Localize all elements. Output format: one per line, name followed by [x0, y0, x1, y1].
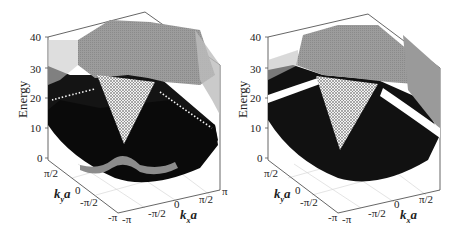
y-tick-0: 0: [75, 185, 81, 196]
kx-axis-label: kxa: [180, 207, 197, 225]
x-tick-neg-pi-half: -π/2: [368, 208, 386, 219]
z-tick-10: 10: [30, 123, 41, 134]
ky-axis-label: kya: [54, 186, 71, 204]
z-tick-20: 20: [250, 93, 261, 104]
z-tick-40: 40: [250, 32, 261, 43]
x-tick-neg-pi: -π: [122, 214, 131, 225]
z-tick-10: 10: [250, 123, 261, 134]
x-tick-pi: π: [222, 186, 228, 197]
z-tick-20: 20: [30, 93, 41, 104]
y-tick-neg-pi: -π: [328, 212, 337, 223]
z-tick-30: 30: [250, 64, 261, 75]
x-tick-0: 0: [394, 199, 400, 210]
x-tick-0: 0: [174, 199, 180, 210]
z-tick-0: 0: [257, 153, 263, 164]
y-tick-pi-half: π/2: [264, 168, 278, 179]
plot-panel-left: 40 30 20 10 0 Energy π/2 0 -π/2 -π kya -…: [0, 0, 228, 235]
ky-axis-label: kya: [274, 186, 291, 204]
x-tick-neg-pi-half: -π/2: [148, 208, 166, 219]
plot-panel-right: 40 30 20 10 0 Energy π/2 0 -π/2 -π kya -…: [228, 0, 455, 235]
y-tick-neg-pi-half: -π/2: [80, 197, 98, 208]
y-tick-neg-pi-half: -π/2: [300, 197, 318, 208]
x-tick-pi-half: π/2: [199, 194, 213, 205]
y-tick-neg-pi: -π: [108, 212, 117, 223]
x-tick-neg-pi: -π: [342, 214, 351, 225]
kx-axis-label: kxa: [400, 207, 417, 225]
z-tick-30: 30: [30, 64, 41, 75]
y-tick-pi-half: π/2: [44, 168, 58, 179]
z-tick-0: 0: [37, 153, 43, 164]
y-tick-0: 0: [295, 185, 301, 196]
z-ticks: [265, 37, 268, 158]
z-axis-label: Energy: [235, 81, 251, 118]
z-axis-label: Energy: [15, 81, 31, 118]
x-tick-pi-half: π/2: [419, 194, 433, 205]
z-tick-40: 40: [30, 32, 41, 43]
